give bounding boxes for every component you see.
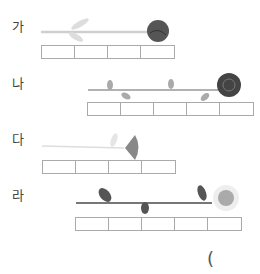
- box-cell: [175, 218, 208, 230]
- box-cell: [76, 161, 109, 173]
- rose-long-stem-icon: [88, 73, 241, 103]
- box-cell: [75, 46, 108, 58]
- box-cell: [142, 218, 175, 230]
- box-cell: [142, 161, 175, 173]
- bellflower-icon: [42, 132, 139, 160]
- box-cell: [109, 218, 142, 230]
- box-cell: [208, 218, 241, 230]
- box-cell: [88, 103, 121, 115]
- box-cell: [187, 103, 220, 115]
- sunflower-icon: [76, 184, 239, 214]
- flowers-illustration: [0, 0, 260, 274]
- box-cell: [76, 218, 109, 230]
- box-cell: [220, 103, 253, 115]
- box-cell: [154, 103, 187, 115]
- answer-boxes-da: [42, 160, 176, 174]
- answer-boxes-ra: [75, 217, 242, 231]
- box-cell: [141, 46, 174, 58]
- box-cell: [109, 161, 142, 173]
- box-cell: [42, 46, 75, 58]
- answer-boxes-na: [87, 102, 254, 116]
- box-cell: [43, 161, 76, 173]
- box-cell: [108, 46, 141, 58]
- answer-boxes-ga: [41, 45, 175, 59]
- box-cell: [121, 103, 154, 115]
- answer-parenthesis[interactable]: (: [207, 248, 214, 269]
- rose-short-stem-icon: [41, 16, 169, 43]
